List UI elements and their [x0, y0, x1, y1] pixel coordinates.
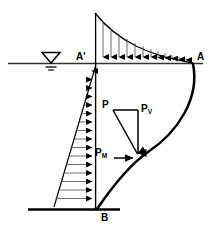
resultant-force-arrow [113, 110, 138, 154]
failure-surface-curve [97, 64, 194, 209]
label-point-a: A [197, 52, 204, 62]
vertical-pressure-distribution [95, 13, 193, 63]
pressure-distribution-figure: A A' B P PV PM [0, 0, 211, 228]
label-lateral-force-subscript: M [102, 152, 107, 159]
down-arrow-group [103, 22, 186, 60]
right-arrow-group [56, 71, 94, 199]
label-point-b: B [101, 213, 108, 223]
label-point-a-prime: A' [76, 52, 86, 62]
lateral-pressure-distribution [54, 66, 96, 207]
label-vertical-force: PV [141, 104, 152, 114]
figure-canvas [0, 0, 211, 228]
water-table-icon [42, 53, 60, 71]
label-lateral-force-base: P [95, 147, 102, 158]
label-lateral-force: PM [95, 148, 107, 158]
force-triangle [113, 110, 138, 158]
label-vertical-force-subscript: V [148, 108, 152, 115]
label-resultant-force: P [102, 100, 109, 110]
label-vertical-force-base: P [141, 103, 148, 114]
